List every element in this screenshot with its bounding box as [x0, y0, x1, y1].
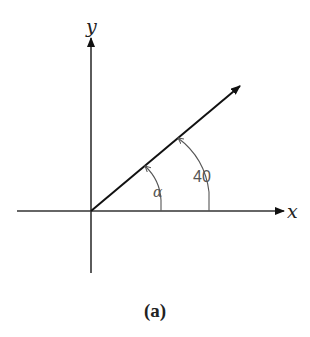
figure-caption: (a) — [0, 300, 310, 322]
y-axis-label: y — [85, 15, 97, 37]
alpha-label: α — [153, 184, 163, 200]
vector-arrow — [91, 86, 240, 211]
angle-diagram: y x α 40 — [0, 0, 310, 337]
x-axis-label: x — [287, 200, 298, 222]
forty-label: 40 — [193, 168, 211, 185]
